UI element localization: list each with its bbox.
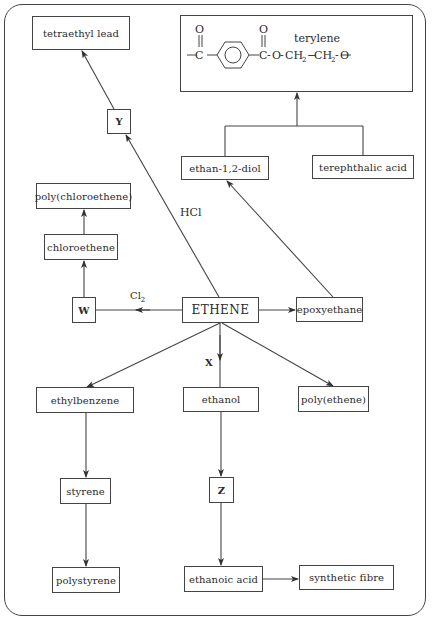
svg-text:-: - xyxy=(335,49,339,62)
node-synthetic-fibre: synthetic fibre xyxy=(299,565,394,590)
node-poly-ethene: poly(ethene) xyxy=(298,386,369,412)
formula-c1: C xyxy=(195,49,203,62)
node-ethylbenzene: ethylbenzene xyxy=(36,387,134,413)
node-polystyrene: polystyrene xyxy=(52,567,120,593)
terylene-formula: O C O C - O - CH 2 − CH 2 - O xyxy=(181,16,414,93)
terylene-box: O C O C - O - CH 2 − CH 2 - O terylene xyxy=(180,15,413,92)
node-z: Z xyxy=(209,477,234,503)
node-epoxyethane: epoxyethane xyxy=(296,297,363,322)
terylene-label: terylene xyxy=(294,32,340,45)
edge-label-x: X xyxy=(205,357,213,368)
node-ethanoic-acid: ethanoic acid xyxy=(184,566,263,592)
node-poly-chloroethene: poly(chloroethene) xyxy=(36,183,131,209)
formula-ch2-b: CH xyxy=(314,49,332,62)
edge-label-cl2: Cl2 xyxy=(130,290,145,304)
svg-text:2: 2 xyxy=(302,56,306,64)
svg-text:-: - xyxy=(267,49,271,62)
formula-ch2-a: CH xyxy=(285,49,303,62)
node-y: Y xyxy=(107,109,131,134)
formula-chain-o2: O xyxy=(340,49,349,62)
svg-text:-: - xyxy=(280,49,284,62)
node-styrene: styrene xyxy=(60,478,111,504)
formula-o-top-1: O xyxy=(195,23,204,36)
node-tetraethyl-lead: tetraethyl lead xyxy=(32,16,130,50)
node-terephthalic-acid: terephthalic acid xyxy=(312,155,414,179)
edge-label-hcl: HCl xyxy=(180,206,202,219)
node-chloroethene: chloroethene xyxy=(44,234,118,260)
formula-o-top-2: O xyxy=(259,23,268,36)
node-ethan-diol: ethan-1,2-diol xyxy=(181,156,269,180)
node-ethanol: ethanol xyxy=(183,387,259,412)
node-ethene: ETHENE xyxy=(182,297,259,323)
node-w: W xyxy=(72,297,96,323)
